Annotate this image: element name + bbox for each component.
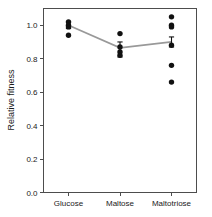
y-axis-title: Relative fitness [6, 69, 16, 131]
y-tick-label: 0.8 [26, 55, 38, 64]
x-tick-label-maltose: Maltose [106, 199, 135, 208]
data-point [66, 33, 71, 38]
data-point [169, 24, 174, 29]
x-axis-ticks: GlucoseMaltoseMaltotriose [54, 193, 192, 208]
y-tick-label: 0.6 [26, 88, 38, 97]
data-point [117, 44, 122, 49]
data-points [66, 14, 174, 85]
data-point [169, 14, 174, 19]
data-point [169, 43, 174, 48]
y-axis-ticks: 0.00.20.40.60.81.0 [26, 21, 43, 197]
y-tick-label: 0.0 [26, 189, 38, 198]
y-tick-label: 1.0 [26, 21, 38, 30]
data-point [169, 63, 174, 68]
y-tick-label: 0.2 [26, 155, 38, 164]
data-point [117, 31, 122, 36]
figure-container: 0.00.20.40.60.81.0 GlucoseMaltoseMaltotr… [0, 0, 212, 217]
x-tick-label-glucose: Glucose [54, 199, 84, 208]
x-tick-label-maltotriose: Maltotriose [152, 199, 192, 208]
data-point [169, 79, 174, 84]
data-point [117, 53, 122, 58]
data-point [66, 24, 71, 29]
relative-fitness-scatter-plot: 0.00.20.40.60.81.0 GlucoseMaltoseMaltotr… [0, 0, 212, 217]
y-tick-label: 0.4 [26, 122, 38, 131]
